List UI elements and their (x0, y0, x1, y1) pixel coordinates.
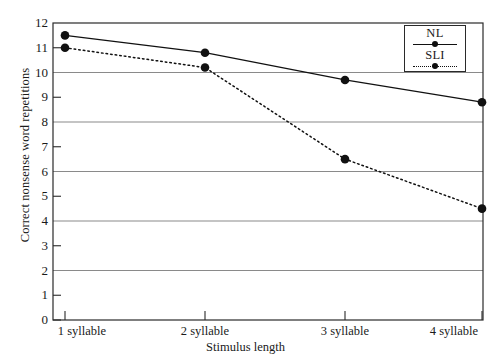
chart-legend: NLSLI (404, 25, 466, 72)
legend-line-sample (413, 40, 457, 49)
x-tick-label: 3 syllable (321, 324, 369, 338)
legend-line-sample (413, 62, 457, 71)
x-tick-label: 2 syllable (181, 324, 229, 338)
legend-label: NL (426, 27, 443, 40)
legend-sample-marker-icon (432, 41, 438, 47)
legend-entry-sli: SLI (405, 49, 465, 71)
legend-label: SLI (425, 49, 445, 62)
x-tick-label: 4 syllable (430, 324, 478, 338)
x-tick-label: 1 syllable (58, 324, 106, 338)
x-axis-title: Stimulus length (0, 340, 491, 354)
legend-entry-nl: NL (405, 27, 465, 49)
chart-figure: Correct nonsense word repetitions 012345… (0, 0, 491, 357)
legend-sample-marker-icon (432, 63, 438, 69)
